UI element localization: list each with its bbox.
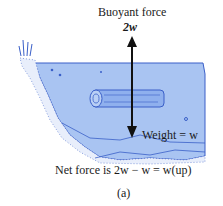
log-icon [90, 90, 164, 107]
buoyant-force-label: Buoyant force [98, 5, 166, 20]
arrow-up-icon [127, 36, 137, 47]
buoyant-force-value: 2w [123, 20, 137, 35]
water-body [35, 63, 205, 160]
grass-icon [19, 40, 32, 56]
net-force-text: Net force is 2w − w = w(up) [55, 163, 192, 178]
figure-caption: (a) [117, 186, 130, 201]
weight-label: Weight = w [142, 128, 198, 143]
